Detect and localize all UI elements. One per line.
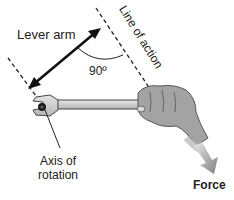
torque-diagram: Lever arm 90º Line of action Axis of rot… (0, 0, 234, 200)
axis-of-rotation-label: Axis of rotation (38, 154, 78, 182)
force-arrow (194, 142, 218, 174)
lever-arm-label: Lever arm (17, 27, 76, 42)
force-label: Force (193, 178, 226, 192)
hand (137, 86, 208, 151)
axis-pointer-line (45, 110, 60, 148)
wrench (33, 95, 154, 116)
angle-label: 90º (89, 64, 107, 78)
right-angle-arc (78, 48, 123, 59)
axis-label-line2: rotation (38, 168, 78, 182)
axis-label-line1: Axis of (38, 154, 78, 168)
